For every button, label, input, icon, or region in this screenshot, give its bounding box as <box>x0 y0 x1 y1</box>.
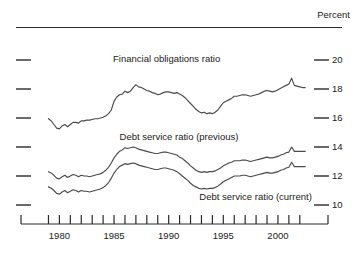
series-line-2 <box>48 147 305 179</box>
series-annotation: Debt service ratio (current) <box>199 191 311 202</box>
series-annotation: Debt service ratio (previous) <box>120 131 239 142</box>
y-tick-label: 14 <box>332 141 343 152</box>
x-tick-label: 1985 <box>94 230 134 241</box>
series-line-3 <box>48 162 305 194</box>
x-tick-label: 2000 <box>258 230 298 241</box>
x-tick-label: 1980 <box>39 230 79 241</box>
series-line-1 <box>48 78 305 129</box>
x-tick-label: 1990 <box>149 230 189 241</box>
y-tick-label: 20 <box>332 54 343 65</box>
series-annotation: Financial obligations ratio <box>113 53 220 64</box>
y-tick-label: 10 <box>332 199 343 210</box>
x-tick-label: 1995 <box>203 230 243 241</box>
chart-figure: Percent 201816141210 1980198519901995200… <box>0 0 358 261</box>
y-tick-label: 12 <box>332 170 343 181</box>
y-tick-label: 18 <box>332 83 343 94</box>
y-tick-label: 16 <box>332 112 343 123</box>
